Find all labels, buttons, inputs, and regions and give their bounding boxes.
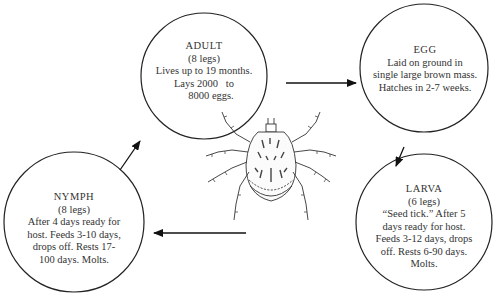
stage-line: Laid on ground in [362, 57, 488, 70]
stage-title: NYMPH [6, 191, 142, 204]
stage-line: off. Rests 6-90 days. [356, 246, 492, 259]
stage-line: host. Feeds 3-10 days, [6, 229, 142, 242]
stage-line: drops off. Rests 17- [6, 241, 142, 254]
stage-larva: LARVA (6 legs) “Seed tick.” After 5 days… [356, 183, 492, 271]
stage-nymph: NYMPH (8 legs) After 4 days ready for ho… [6, 191, 142, 266]
stage-title: LARVA [356, 183, 492, 196]
stage-egg: EGG Laid on ground in single large brown… [362, 44, 488, 94]
stage-line: Molts. [356, 258, 492, 271]
stage-title: EGG [362, 44, 488, 57]
stage-line: Feeds 3-12 days, drops [356, 233, 492, 246]
stage-line: “Seed tick.” After 5 [356, 208, 492, 221]
stage-line: Hatches in 2-7 weeks. [362, 82, 488, 95]
stage-adult: ADULT (8 legs) Lives up to 19 months. La… [141, 40, 267, 103]
stage-line: days ready for host. [356, 221, 492, 234]
stage-line: (8 legs) [6, 204, 142, 217]
stage-line: (8 legs) [141, 53, 267, 66]
tick-icon [206, 112, 336, 220]
stage-line: single large brown mass. [362, 69, 488, 82]
stage-title: ADULT [141, 40, 267, 53]
arrow-nymph-to-adult [120, 141, 140, 170]
stage-line: Lives up to 19 months. [141, 65, 267, 78]
arrow-egg-to-larva [396, 147, 404, 166]
stage-line: (6 legs) [356, 196, 492, 209]
stage-line: 100 days. Molts. [6, 254, 142, 267]
stage-line: Lays 2000 to [141, 78, 267, 91]
stage-line: After 4 days ready for [6, 216, 142, 229]
stage-line: 8000 eggs. [141, 90, 267, 103]
